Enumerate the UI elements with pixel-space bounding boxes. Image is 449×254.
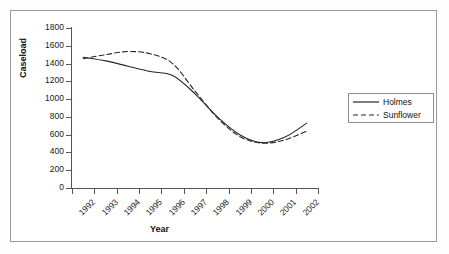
chart-legend: Holmes Sunflower <box>348 93 434 123</box>
legend-swatch-dashed-icon <box>353 111 379 119</box>
legend-label: Sunflower <box>383 110 421 120</box>
series-plot <box>0 0 449 254</box>
legend-label: Holmes <box>383 97 412 107</box>
chart-figure: 020040060080010001200140016001800 199219… <box>0 0 449 254</box>
legend-swatch-solid-icon <box>353 98 379 106</box>
series-line-sunflower <box>83 52 307 144</box>
series-line-holmes <box>83 57 307 142</box>
legend-item-holmes: Holmes <box>353 95 412 108</box>
legend-item-sunflower: Sunflower <box>353 108 421 121</box>
